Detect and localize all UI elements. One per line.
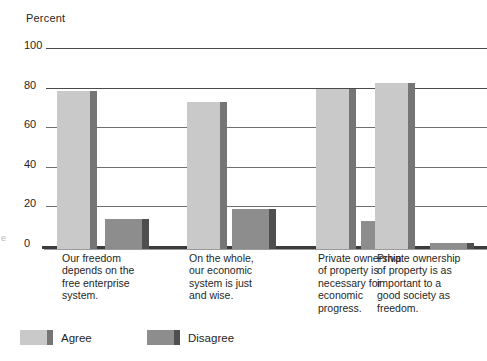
bar-side-shading: [349, 89, 356, 249]
bar-agree-3: [316, 89, 356, 249]
bar-side-shading: [408, 83, 415, 249]
bar-face: [105, 219, 142, 249]
category-label-line: good society as: [377, 289, 487, 301]
category-label-1: Our freedomdepends on thefree enterprise…: [62, 252, 174, 302]
legend-swatch-face: [147, 330, 174, 345]
bar-side-shading: [220, 102, 227, 249]
bar-agree-2: [187, 102, 227, 249]
bar-side-shading: [142, 219, 149, 249]
legend-swatch-side: [174, 330, 180, 345]
bar-side-shading: [269, 209, 276, 249]
category-label-line: Our freedom: [62, 252, 174, 264]
bar-face: [316, 89, 349, 249]
bar-side-shading: [90, 91, 97, 249]
category-label-4: Private ownershipof property is asimport…: [377, 252, 487, 314]
bar-disagree-1: [105, 219, 149, 249]
category-label-line: depends on the: [62, 264, 174, 276]
legend-swatch-face: [20, 330, 47, 345]
legend-label: Disagree: [188, 332, 234, 344]
bar-disagree-4: [430, 243, 474, 249]
bar-face: [430, 243, 467, 249]
category-label-line: Private ownership: [377, 252, 487, 264]
bar-side-shading: [467, 243, 474, 249]
category-label-2: On the whole,our economicsystem is justa…: [189, 252, 301, 302]
category-label-line: and wise.: [189, 289, 301, 301]
category-label-line: On the whole,: [189, 252, 301, 264]
category-labels: Our freedomdepends on thefree enterprise…: [0, 252, 487, 322]
category-label-line: our economic: [189, 264, 301, 276]
bar-face: [187, 102, 220, 249]
category-label-line: important to a: [377, 277, 487, 289]
legend-label: Agree: [61, 332, 92, 344]
legend-swatch-agree: [20, 330, 53, 345]
legend-swatch-side: [47, 330, 53, 345]
bar-face: [375, 83, 408, 249]
legend-item-agree[interactable]: Agree: [20, 330, 92, 345]
bar-agree-1: [57, 91, 97, 249]
bar-disagree-2: [232, 209, 276, 249]
category-label-line: system.: [62, 289, 174, 301]
category-label-line: free enterprise: [62, 277, 174, 289]
category-label-line: system is just: [189, 277, 301, 289]
chart-legend: AgreeDisagree: [0, 330, 487, 356]
legend-item-disagree[interactable]: Disagree: [147, 330, 234, 345]
legend-swatch-disagree: [147, 330, 180, 345]
bar-agree-4: [375, 83, 415, 249]
bar-face: [57, 91, 90, 249]
category-label-line: of property is as: [377, 264, 487, 276]
bar-face: [232, 209, 269, 249]
category-label-line: freedom.: [377, 302, 487, 314]
